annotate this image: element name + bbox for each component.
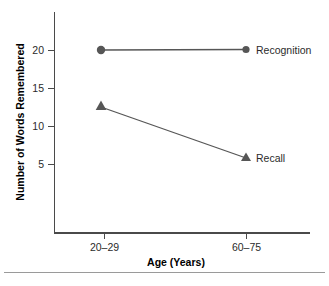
line-chart-canvas: 20 15 10 5 20–29 60–75 Age (Years) Numbe… [0, 0, 329, 286]
series-label-recall: Recall [256, 152, 285, 164]
x-tick-label-young: 20–29 [90, 241, 119, 253]
y-tick-label-15: 15 [32, 82, 44, 94]
y-tick-label-5: 5 [38, 158, 44, 170]
x-axis-title: Age (Years) [147, 256, 205, 268]
y-tick-label-20: 20 [32, 44, 44, 56]
marker-recognition-old [242, 46, 249, 53]
y-axis-title: Number of Words Remembered [14, 43, 26, 200]
marker-recognition-young [97, 46, 105, 54]
series-label-recognition: Recognition [256, 44, 312, 56]
x-tick-label-old: 60–75 [232, 241, 261, 253]
y-tick-label-10: 10 [32, 120, 44, 132]
series-line-recognition [101, 50, 246, 51]
chart-background [0, 0, 329, 286]
chart-figure: 20 15 10 5 20–29 60–75 Age (Years) Numbe… [0, 0, 329, 286]
